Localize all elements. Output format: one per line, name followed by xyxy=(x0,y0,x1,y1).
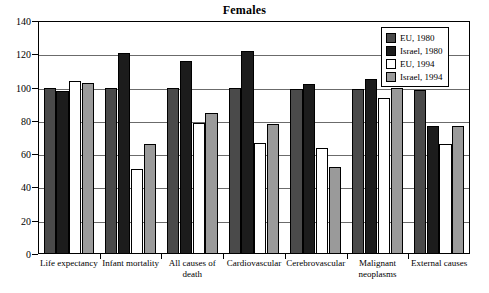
bar xyxy=(365,79,377,254)
bar xyxy=(303,84,315,254)
legend-item-label: EU, 1994 xyxy=(400,59,435,69)
legend-swatch-icon xyxy=(386,33,396,43)
bar xyxy=(193,123,205,254)
legend-item-label: EU, 1980 xyxy=(400,33,435,43)
x-axis-group-separator xyxy=(100,254,101,259)
chart-legend: EU, 1980Israel, 1980EU, 1994Israel, 1994 xyxy=(381,27,449,87)
bar xyxy=(144,144,156,254)
y-axis-tick-label: 40 xyxy=(21,182,31,193)
legend-swatch-icon xyxy=(386,46,396,56)
x-axis-category-label-line1: External causes xyxy=(408,258,470,269)
bar xyxy=(352,89,364,254)
y-axis-tick-label: 140 xyxy=(16,16,31,27)
bar xyxy=(205,113,217,254)
legend-swatch-icon xyxy=(386,72,396,82)
y-axis-tick-mark xyxy=(32,254,38,255)
legend-item: Israel, 1980 xyxy=(386,44,443,57)
x-axis-category-label: Life expectancy xyxy=(38,258,100,269)
legend-item: EU, 1980 xyxy=(386,31,443,44)
legend-item: Israel, 1994 xyxy=(386,70,443,83)
legend-item: EU, 1994 xyxy=(386,57,443,70)
bar xyxy=(427,126,439,254)
bar-group xyxy=(161,21,223,254)
legend-item-label: Israel, 1994 xyxy=(400,72,443,82)
x-axis-category-label-line2: neoplasms xyxy=(347,269,409,280)
chart-title: Females xyxy=(0,3,489,18)
x-axis-group-separator xyxy=(223,254,224,259)
bar xyxy=(118,53,130,254)
y-axis-tick-label: 80 xyxy=(21,115,31,126)
bar xyxy=(44,88,56,254)
bar xyxy=(105,88,117,254)
x-axis-category-label-line1: All causes of xyxy=(161,258,223,269)
x-axis-group-separator xyxy=(161,254,162,259)
bar-group xyxy=(100,21,162,254)
bar xyxy=(329,167,341,254)
bar xyxy=(56,91,68,254)
y-axis-tick-label: 20 xyxy=(21,215,31,226)
x-axis-group-separator xyxy=(347,254,348,259)
legend-item-label: Israel, 1980 xyxy=(400,46,443,56)
y-axis-tick-label: 120 xyxy=(16,49,31,60)
bar-group xyxy=(285,21,347,254)
bar xyxy=(229,88,241,254)
bar xyxy=(452,126,464,254)
x-axis: Life expectancyInfant mortalityAll cause… xyxy=(0,258,489,293)
x-axis-category-label: Cardiovascular xyxy=(223,258,285,269)
x-axis-category-label: All causes ofdeath xyxy=(161,258,223,280)
bar xyxy=(69,81,81,254)
bar xyxy=(414,90,426,254)
bar xyxy=(290,89,302,254)
x-axis-category-label-line1: Infant mortality xyxy=(100,258,162,269)
x-axis-category-label: External causes xyxy=(408,258,470,269)
bar xyxy=(267,124,279,254)
bar-group xyxy=(38,21,100,254)
legend-swatch-icon xyxy=(386,59,396,69)
x-axis-category-label: Cerebrovascular xyxy=(285,258,347,269)
x-axis-category-label: Infant mortality xyxy=(100,258,162,269)
bar xyxy=(254,143,266,255)
bar xyxy=(391,88,403,254)
y-axis: 020406080100120140 xyxy=(0,0,38,293)
x-axis-category-label-line1: Malignant xyxy=(347,258,409,269)
x-axis-category-label-line1: Cardiovascular xyxy=(223,258,285,269)
bar xyxy=(180,61,192,254)
bar xyxy=(131,169,143,254)
bar-chart: Females 020406080100120140 Life expectan… xyxy=(0,0,489,293)
x-axis-group-separator xyxy=(285,254,286,259)
bar xyxy=(82,83,94,254)
x-axis-group-separator xyxy=(408,254,409,259)
bar xyxy=(378,98,390,254)
x-axis-category-label: Malignantneoplasms xyxy=(347,258,409,280)
bar xyxy=(241,51,253,254)
x-axis-category-label-line2: death xyxy=(161,269,223,280)
x-axis-category-label-line1: Life expectancy xyxy=(38,258,100,269)
bar xyxy=(167,88,179,254)
x-axis-category-label-line1: Cerebrovascular xyxy=(285,258,347,269)
y-axis-tick-label: 60 xyxy=(21,149,31,160)
bar-group xyxy=(223,21,285,254)
bar xyxy=(439,144,451,254)
y-axis-tick-label: 100 xyxy=(16,82,31,93)
bar xyxy=(316,148,328,255)
